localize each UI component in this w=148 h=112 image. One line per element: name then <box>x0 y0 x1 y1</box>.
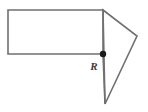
geometry-figure-canvas: R <box>0 0 148 112</box>
geometry-figure-svg: R <box>0 0 148 112</box>
point-r-label: R <box>89 60 97 72</box>
point-r-marker <box>100 51 106 57</box>
figure-background <box>0 0 148 112</box>
